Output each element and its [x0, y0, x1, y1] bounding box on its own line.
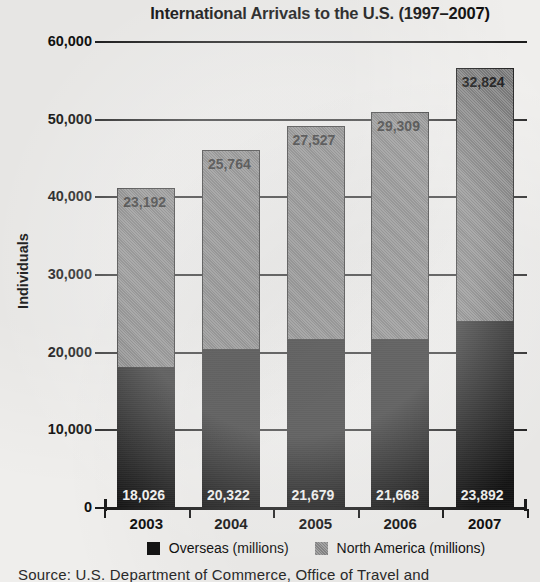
bar-value-label-overseas: 23,892 — [461, 488, 504, 502]
chart-legend: Overseas (millions) North America (milli… — [104, 540, 528, 556]
bar-value-label-overseas: 21,668 — [376, 488, 419, 502]
y-axis-tick — [95, 119, 104, 121]
x-axis-tick — [527, 509, 529, 518]
bar-segment-overseas: 20,322 — [202, 350, 260, 508]
bar-segment-north-america: 29,309 — [371, 112, 429, 340]
chart-figure: International Arrivals to the U.S. (1997… — [0, 0, 540, 582]
bar-segment-overseas: 18,026 — [117, 368, 175, 508]
x-axis-tick-label: 2006 — [358, 515, 442, 532]
bar-value-label-north-america: 23,192 — [123, 195, 166, 209]
legend-item-north-america: North America (millions) — [315, 540, 486, 556]
bar-value-label-overseas: 20,322 — [207, 488, 250, 502]
y-axis-tick-label: 50,000 — [6, 111, 92, 127]
y-axis-tick — [95, 352, 104, 354]
plot-area: 18,02623,19220,32225,76421,67927,52721,6… — [104, 42, 527, 508]
bar-group: 21,66829,309 — [371, 42, 429, 508]
y-axis-tick-label: 60,000 — [6, 33, 92, 49]
x-axis-tick — [442, 509, 444, 518]
x-axis-tick-label: 2004 — [189, 515, 273, 532]
bar-segment-overseas: 23,892 — [456, 322, 514, 508]
x-axis-tick-label: 2007 — [443, 515, 527, 532]
y-axis-tick-label: 10,000 — [6, 421, 92, 437]
x-axis-tick-label: 2005 — [274, 515, 358, 532]
y-axis-tick-label: 0 — [6, 499, 92, 515]
legend-swatch-north-america-icon — [315, 542, 328, 555]
bar-group: 20,32225,764 — [202, 42, 260, 508]
y-axis-tick — [95, 196, 104, 198]
source-note: Source: U.S. Department of Commerce, Off… — [18, 566, 528, 582]
bar-segment-overseas: 21,668 — [371, 340, 429, 508]
x-axis-tick — [358, 509, 360, 518]
bar-value-label-north-america: 25,764 — [208, 157, 251, 171]
bar-segment-overseas: 21,679 — [287, 340, 345, 508]
bar-segment-north-america: 27,527 — [287, 126, 345, 340]
y-axis-tick-label: 20,000 — [6, 344, 92, 360]
bar-value-label-north-america: 32,824 — [462, 75, 505, 89]
chart-title: International Arrivals to the U.S. (1997… — [100, 4, 540, 23]
x-axis-line — [104, 507, 527, 510]
bar-value-label-north-america: 29,309 — [377, 119, 420, 133]
bar-value-label-overseas: 21,679 — [292, 488, 335, 502]
y-axis-tick — [95, 41, 104, 43]
x-axis-tick — [104, 509, 106, 518]
bar-value-label-north-america: 27,527 — [293, 133, 336, 147]
bar-segment-north-america: 32,824 — [456, 68, 514, 323]
legend-swatch-overseas-icon — [147, 542, 160, 555]
y-axis-tick-label: 40,000 — [6, 188, 92, 204]
x-axis-tick — [273, 509, 275, 518]
legend-label-north-america: North America (millions) — [337, 540, 486, 556]
legend-item-overseas: Overseas (millions) — [147, 540, 289, 556]
y-axis-tick — [95, 429, 104, 431]
y-axis-tick — [95, 507, 104, 509]
bar-group: 23,89232,824 — [456, 42, 514, 508]
y-axis-tick-label: 30,000 — [6, 266, 92, 282]
bar-value-label-overseas: 18,026 — [122, 488, 165, 502]
bar-group: 18,02623,192 — [117, 42, 175, 508]
bar-segment-north-america: 25,764 — [202, 150, 260, 350]
legend-label-overseas: Overseas (millions) — [169, 540, 289, 556]
y-axis-tick — [95, 274, 104, 276]
x-axis-tick — [189, 509, 191, 518]
x-axis-tick-label: 2003 — [104, 515, 188, 532]
bar-segment-north-america: 23,192 — [117, 188, 175, 368]
bar-group: 21,67927,527 — [287, 42, 345, 508]
